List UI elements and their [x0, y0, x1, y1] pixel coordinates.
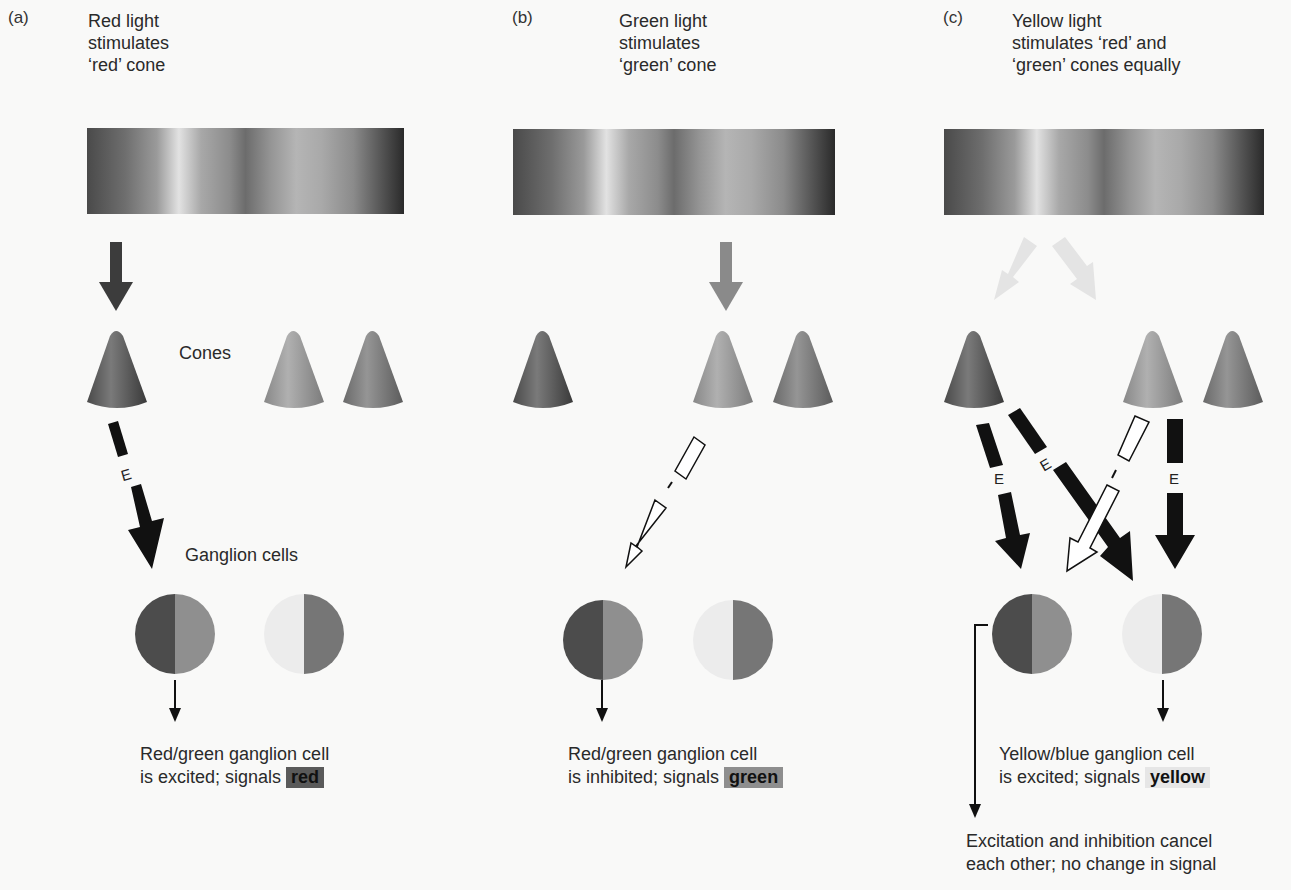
- green-cone-icon: [1123, 331, 1183, 408]
- output-arrow-icon: [1157, 680, 1169, 722]
- panel-c-result: Yellow/blue ganglion cell is excited; si…: [999, 743, 1210, 789]
- yellow-blue-ganglion-cell: [1122, 594, 1202, 674]
- svg-text:E: E: [1169, 470, 1179, 487]
- note-line: Excitation and inhibition cancel: [966, 830, 1216, 853]
- excitatory-arrow-icon: E: [976, 423, 1030, 569]
- note-leader-arrow-icon: [969, 625, 988, 818]
- panel-c-note: Excitation and inhibition cancel each ot…: [966, 830, 1216, 876]
- blue-cone-icon: [1203, 331, 1263, 408]
- signal-badge-yellow: yellow: [1145, 767, 1210, 788]
- note-line: each other; no change in signal: [966, 853, 1216, 876]
- red-green-ganglion-cell: [992, 594, 1072, 674]
- red-cone-icon: [944, 331, 1004, 408]
- stimulus-arrow-icon: [994, 237, 1096, 300]
- result-line: Yellow/blue ganglion cell: [999, 743, 1210, 766]
- result-line: is excited; signals: [999, 767, 1140, 787]
- svg-text:E: E: [1037, 455, 1054, 475]
- excitatory-arrow-icon: E: [1155, 419, 1195, 569]
- svg-text:E: E: [994, 470, 1004, 487]
